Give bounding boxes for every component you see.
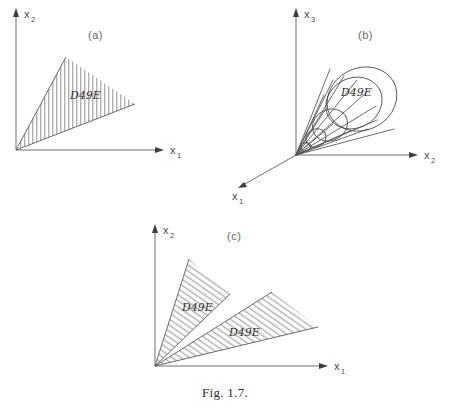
panel-b-label-x3: x 3 bbox=[304, 8, 315, 24]
panel-c-label-x2: x 2 bbox=[163, 224, 174, 240]
panel-a: D49E x 2 x 1 (a) bbox=[10, 8, 181, 160]
svg-text:x: x bbox=[163, 224, 169, 236]
svg-text:x: x bbox=[304, 8, 310, 20]
panel-b-cone-symbol: D49E bbox=[340, 86, 372, 99]
panel-b: D49E x 3 x 2 x 1 (b) bbox=[232, 8, 435, 206]
panel-c-axis-horizontal bbox=[155, 363, 328, 369]
panel-a-cone-symbol: D49E bbox=[69, 89, 101, 102]
svg-text:1: 1 bbox=[177, 151, 181, 160]
panel-a-axis-horizontal bbox=[16, 147, 164, 153]
cone-figure: D49E x 2 x 1 (a) bbox=[0, 0, 450, 408]
panel-b-axis-horizontal bbox=[296, 152, 418, 158]
panel-b-label-x2: x 2 bbox=[424, 149, 435, 165]
svg-text:1: 1 bbox=[341, 367, 345, 376]
panel-a-label-x1: x 1 bbox=[170, 144, 181, 160]
panel-c-label: (c) bbox=[227, 230, 241, 242]
panel-c-cone-upper-symbol: D49E bbox=[181, 301, 213, 314]
panel-c-label-x1: x 1 bbox=[334, 360, 345, 376]
figure-container: D49E x 2 x 1 (a) bbox=[0, 0, 450, 408]
panel-a-cone-region bbox=[10, 50, 145, 155]
panel-b-cone-mesh bbox=[296, 55, 408, 155]
svg-text:2: 2 bbox=[31, 15, 35, 24]
panel-b-axis-vertical bbox=[293, 8, 299, 155]
panel-a-label: (a) bbox=[88, 29, 103, 41]
svg-text:x: x bbox=[424, 149, 430, 161]
panel-a-axis-vertical bbox=[13, 8, 19, 150]
svg-text:1: 1 bbox=[239, 197, 243, 206]
panel-c: D49E D49E x 2 x 1 (c) bbox=[150, 224, 345, 376]
svg-text:3: 3 bbox=[311, 15, 315, 24]
svg-text:2: 2 bbox=[170, 231, 174, 240]
panel-b-axis-depth bbox=[238, 155, 296, 188]
svg-text:x: x bbox=[170, 144, 176, 156]
panel-c-cone-lower-symbol: D49E bbox=[228, 326, 260, 339]
svg-text:x: x bbox=[24, 8, 30, 20]
svg-text:2: 2 bbox=[431, 156, 435, 165]
svg-text:x: x bbox=[334, 360, 340, 372]
panel-a-label-x2: x 2 bbox=[24, 8, 35, 24]
panel-b-label: (b) bbox=[358, 29, 373, 41]
panel-b-label-x1: x 1 bbox=[232, 190, 243, 206]
panel-c-axis-vertical bbox=[152, 224, 158, 366]
figure-caption: Fig. 1.7. bbox=[202, 385, 248, 400]
svg-text:x: x bbox=[232, 190, 238, 202]
